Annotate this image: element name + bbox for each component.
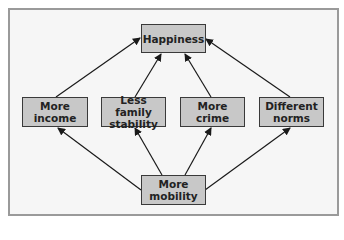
node-different-norms: Different norms <box>259 97 324 127</box>
node-label-line2: stability <box>109 118 158 130</box>
node-label-line1: Different <box>265 100 318 112</box>
arrow-mobility-to-norms <box>205 128 290 190</box>
arrow-mobility-to-crime <box>185 128 211 175</box>
node-more-crime: More crime <box>180 97 245 127</box>
node-label-line1: More <box>198 100 228 112</box>
node-label-line1: Less family <box>102 94 165 118</box>
node-label-line1: More <box>40 100 70 112</box>
node-label-line2: crime <box>196 112 229 124</box>
node-more-mobility: More mobility <box>141 175 206 205</box>
node-label-line1: More <box>159 178 189 190</box>
arrow-family-to-happiness <box>135 54 161 97</box>
arrow-mobility-to-income <box>58 128 141 190</box>
node-less-family-stability: Less family stability <box>101 97 166 127</box>
arrow-income-to-happiness <box>56 38 140 97</box>
node-happiness-label: Happiness <box>143 33 205 45</box>
arrow-mobility-to-family <box>135 128 162 175</box>
arrow-crime-to-happiness <box>185 54 211 97</box>
node-more-income: More income <box>22 97 88 127</box>
node-happiness: Happiness <box>141 24 206 53</box>
arrow-norms-to-happiness <box>206 39 290 97</box>
node-label-line2: norms <box>273 112 310 124</box>
node-label-line2: mobility <box>149 190 197 202</box>
node-label-line2: income <box>34 112 77 124</box>
